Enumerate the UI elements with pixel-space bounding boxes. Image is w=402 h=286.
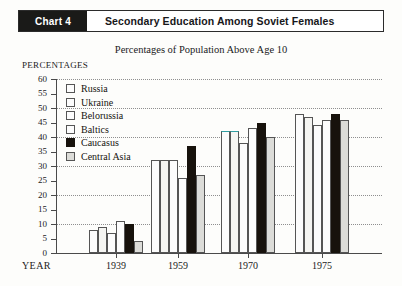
x-axis-tick	[178, 253, 179, 258]
x-axis-tick	[322, 253, 323, 258]
bar	[304, 117, 313, 253]
y-axis-tick-label: 10	[21, 220, 47, 229]
legend-swatch-icon	[66, 138, 75, 147]
y-axis-tick-label: 15	[21, 205, 47, 214]
chart-number-tag: Chart 4	[19, 11, 87, 31]
y-axis-tick	[51, 210, 57, 211]
y-axis-tick	[51, 94, 57, 95]
legend-item: Caucasus	[66, 136, 131, 150]
y-axis-tick	[51, 239, 57, 240]
y-axis-tick-label: 55	[21, 89, 47, 98]
chart-header: Chart 4 Secondary Education Among Soviet…	[18, 10, 384, 32]
x-axis-tick	[116, 253, 117, 258]
legend-item: Ukraine	[66, 96, 131, 110]
x-axis-tick	[248, 253, 249, 258]
bar-group	[295, 79, 349, 253]
legend-item-label: Belorussia	[81, 110, 123, 121]
bar	[295, 114, 304, 253]
y-axis-tick-label: 60	[21, 75, 47, 84]
bar	[98, 227, 107, 253]
y-axis-tick-label: 45	[21, 118, 47, 127]
bar	[187, 146, 196, 253]
legend-swatch-icon	[66, 125, 75, 134]
bar	[169, 160, 178, 253]
y-axis-caption: PERCENTAGES	[22, 60, 88, 70]
y-axis-tick-label: 5	[21, 234, 47, 243]
bar	[178, 178, 187, 253]
bar	[331, 114, 340, 253]
y-axis-tick-label: 25	[21, 176, 47, 185]
legend-item-label: Caucasus	[81, 137, 119, 148]
bar	[151, 160, 160, 253]
x-axis-tick-label: 1959	[148, 260, 208, 271]
legend-swatch-icon	[66, 111, 75, 120]
bar	[230, 131, 239, 253]
bar	[340, 120, 349, 253]
bar	[248, 128, 257, 253]
legend-swatch-icon	[66, 98, 75, 107]
bar	[107, 233, 116, 253]
bar-group	[221, 79, 275, 253]
bar	[160, 160, 169, 253]
bar	[313, 125, 322, 253]
legend-item-label: Baltics	[81, 124, 109, 135]
chart-title: Secondary Education Among Soviet Females	[87, 11, 383, 31]
x-axis-tick-label: 1939	[86, 260, 146, 271]
bar	[322, 120, 331, 253]
y-axis-tick	[51, 253, 57, 254]
y-axis-tick-label: 50	[21, 104, 47, 113]
x-axis-caption: YEAR	[22, 260, 51, 271]
legend-item-label: Russia	[81, 83, 108, 94]
legend-swatch-icon	[66, 84, 75, 93]
bar	[89, 230, 98, 253]
y-axis-tick-label: 40	[21, 133, 47, 142]
y-axis-tick-label: 0	[21, 249, 47, 258]
y-axis-tick-label: 35	[21, 147, 47, 156]
y-axis-tick-label: 20	[21, 191, 47, 200]
legend-item: Baltics	[66, 123, 131, 137]
bar	[134, 241, 143, 253]
chart-page: Chart 4 Secondary Education Among Soviet…	[0, 0, 402, 286]
x-axis-tick-label: 1975	[292, 260, 352, 271]
bar	[196, 175, 205, 253]
legend-item-label: Ukraine	[81, 97, 113, 108]
bar	[221, 131, 230, 253]
legend-item: Russia	[66, 82, 131, 96]
legend-item: Belorussia	[66, 109, 131, 123]
legend-swatch-icon	[66, 152, 75, 161]
y-axis-tick-label: 30	[21, 162, 47, 171]
bar	[239, 143, 248, 253]
bar	[257, 123, 266, 254]
y-axis-tick	[51, 152, 57, 153]
bar	[266, 137, 275, 253]
bar	[125, 224, 134, 253]
x-axis-tick-label: 1970	[218, 260, 278, 271]
legend-item-label: Central Asia	[81, 151, 131, 162]
chart-subtitle: Percentages of Population Above Age 10	[0, 44, 402, 55]
y-axis-tick	[51, 181, 57, 182]
y-axis-tick	[51, 123, 57, 124]
chart-legend: RussiaUkraineBelorussiaBalticsCaucasusCe…	[66, 82, 131, 163]
bar	[116, 221, 125, 253]
legend-item: Central Asia	[66, 150, 131, 164]
bar-group	[151, 79, 205, 253]
